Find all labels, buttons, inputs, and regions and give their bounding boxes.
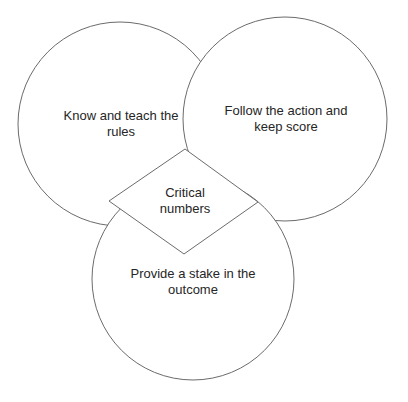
label-follow-action-keep-score: Follow the action and keep score xyxy=(216,103,356,135)
label-know-and-teach-rules: Know and teach the rules xyxy=(56,108,186,140)
label-provide-stake-in-outcome: Provide a stake in the outcome xyxy=(118,266,268,298)
label-critical-numbers: Critical numbers xyxy=(150,185,220,217)
